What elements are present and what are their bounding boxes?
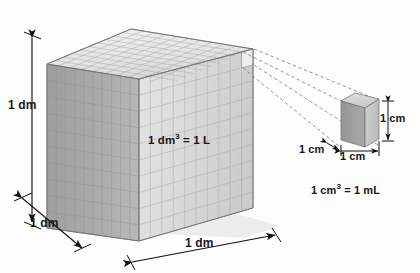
cubic-centimeter-equation: 1 cm3 = 1 mL xyxy=(311,184,380,196)
cubic-decimeter-equation-tail: = 1 L xyxy=(180,134,210,146)
small-depth-label: 1 cm xyxy=(299,143,324,155)
small-height-label: 1 cm xyxy=(380,112,405,124)
height-dimension-arrow xyxy=(24,32,41,229)
cubic-decimeter-equation-base: 1 dm xyxy=(148,134,175,146)
small-cube-left-face xyxy=(341,101,365,147)
cubic-centimeter-equation-base: 1 cm xyxy=(311,184,336,196)
small-cube xyxy=(341,93,379,147)
width-label: 1 dm xyxy=(185,236,213,250)
small-width-label: 1 cm xyxy=(340,150,365,162)
height-label: 1 dm xyxy=(8,98,36,112)
cubic-centimeter-equation-tail: = 1 mL xyxy=(341,184,380,196)
depth-label: 1 dm xyxy=(30,216,58,230)
small-depth-dimension-arrow xyxy=(327,143,339,150)
cubic-decimeter-equation: 1 dm3 = 1 L xyxy=(148,134,210,146)
